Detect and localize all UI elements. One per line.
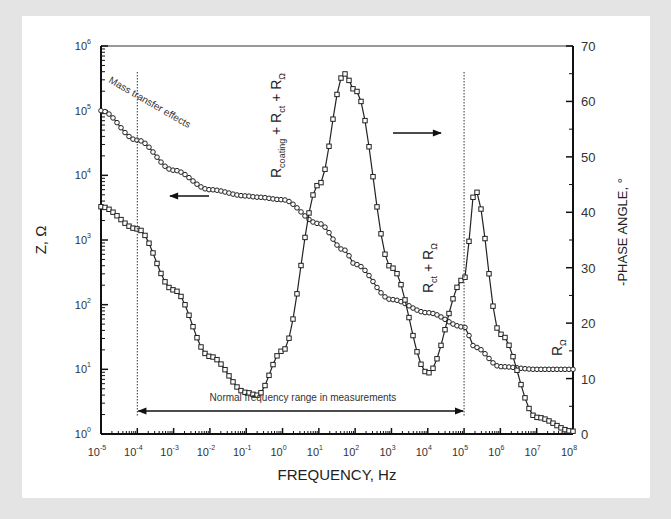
circle-marker [295,206,300,211]
svg-text:Rct + RΩ: Rct + RΩ [420,243,439,293]
square-marker [287,336,291,340]
square-marker [519,382,523,386]
square-marker [515,368,519,372]
x-axis-title: FREQUENCY, Hz [278,466,397,483]
x-tick-label: 10-1 [233,444,252,458]
circle-marker [331,237,336,242]
circle-marker [467,333,472,338]
circle-marker [335,243,340,248]
square-marker [463,275,467,279]
circle-marker [123,130,128,135]
square-marker [231,380,235,384]
square-marker [435,357,439,361]
square-marker [143,233,147,237]
y2-tick-label: 70 [581,39,595,54]
y-axis-title: Z, Ω [32,226,49,255]
circle-marker [571,367,576,372]
square-marker [183,303,187,307]
square-marker [175,289,179,293]
x-tick-label: 104 [416,444,432,458]
square-marker [159,271,163,275]
circle-marker [371,279,376,284]
square-marker [527,406,531,410]
bode-plot: 10-510-410-310-210-110010110210310410510… [0,0,671,519]
square-marker [487,272,491,276]
square-marker [323,167,327,171]
square-marker [263,383,267,387]
circle-marker [379,291,384,296]
square-marker [523,396,527,400]
square-marker [383,252,387,256]
x-tick-label: 106 [488,444,504,458]
square-marker [335,92,339,96]
square-marker [139,228,143,232]
square-marker [419,362,423,366]
circle-marker [479,347,484,352]
square-marker [327,144,331,148]
r-omega-label: RΩ [549,339,568,356]
y2-tick-label: 10 [581,372,595,387]
circle-marker [159,160,164,165]
x-tick-label: 102 [343,444,359,458]
mass-transfer-label: Mass transfer effects [107,74,193,130]
y2-axis-title: -PHASE ANGLE, ° [615,178,630,286]
square-marker [271,362,275,366]
square-marker [343,72,347,76]
y2-tick-label: 30 [581,261,595,276]
square-marker [331,117,335,121]
square-marker [475,190,479,194]
square-marker [495,326,499,330]
frequency-range-label: Normal frequency range in measurements [210,392,397,403]
square-marker [319,180,323,184]
circle-marker [115,120,120,125]
square-marker [455,285,459,289]
y-tick-label: 103 [75,232,91,246]
square-marker [311,193,315,197]
square-marker [443,327,447,331]
x-tick-label: 105 [452,444,468,458]
r-ct-label: Rct + RΩ [420,243,439,293]
x-tick-label: 10-2 [197,444,216,458]
circle-marker [343,248,348,253]
circle-marker [327,230,332,235]
square-marker [451,297,455,301]
y-tick-label: 104 [75,167,91,181]
y2-tick-label: 50 [581,150,595,165]
circle-marker [155,155,160,160]
square-marker [503,335,507,339]
square-marker [415,350,419,354]
square-marker [267,373,271,377]
square-marker [491,304,495,308]
svg-text:Rcoating + Rct + RΩ: Rcoating + Rct + RΩ [268,73,287,178]
circle-marker [367,273,372,278]
plot-curves [99,72,576,434]
square-marker [431,366,435,370]
y-tick-label: 100 [75,426,91,440]
square-marker [347,78,351,82]
circle-marker [299,210,304,215]
circle-marker [483,351,488,356]
x-tick-label: 10-4 [124,444,143,458]
square-marker [467,239,471,243]
phase-curve [101,74,573,431]
svg-text:RΩ: RΩ [549,339,568,356]
square-marker [303,235,307,239]
square-marker [427,371,431,375]
square-marker [291,317,295,321]
square-marker [179,294,183,298]
square-marker [371,174,375,178]
circle-marker [487,356,492,361]
circle-marker [187,175,192,180]
square-marker [399,282,403,286]
square-marker [307,211,311,215]
square-marker [411,333,415,337]
x-tick-label: 101 [307,444,323,458]
y2-tick-label: 0 [581,427,588,442]
square-marker [275,354,279,358]
y-tick-label: 106 [75,38,91,52]
circle-marker [147,145,152,150]
r-coating-label: Rcoating + Rct + RΩ [268,73,287,178]
square-marker [163,280,167,284]
square-marker [151,251,155,255]
square-marker [299,263,303,267]
